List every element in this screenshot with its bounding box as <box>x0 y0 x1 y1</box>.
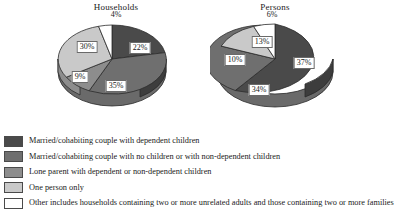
pie-svg-persons <box>210 0 340 132</box>
pct-persons-one-person: 13% <box>252 36 273 48</box>
legend-swatch-icon-other <box>4 198 23 209</box>
legend-label-lone-parent: Lone parent with dependent or non-depend… <box>29 167 211 177</box>
pct-households-lone-parent: 9% <box>72 71 89 83</box>
pct-households-married-dependent: 22% <box>130 42 151 54</box>
legend-item-other: Other includes households containing two… <box>4 196 418 210</box>
pie-chart-persons: Persons 6% 37% 34% 10% 1 <box>210 0 340 132</box>
legend-label-married-no-children: Married/cohabiting couple with no childr… <box>29 152 280 162</box>
pie-svg-households <box>54 0 178 132</box>
charts-container: Households <box>0 0 420 132</box>
pct-persons-lone-parent: 10% <box>225 54 246 66</box>
pct-households-one-person: 30% <box>77 41 98 53</box>
chart-legend: Married/cohabiting couple with dependent… <box>4 134 418 212</box>
legend-swatch-icon-lone-parent <box>4 167 23 178</box>
legend-label-other: Other includes households containing two… <box>29 198 394 208</box>
legend-swatch-icon-married-dependent <box>4 136 23 147</box>
legend-swatch-icon-one-person <box>4 182 23 193</box>
pie-chart-households: Households <box>54 0 178 132</box>
legend-swatch-icon-married-no-children <box>4 151 23 162</box>
pct-persons-married-dependent: 37% <box>294 57 315 69</box>
legend-item-one-person: One person only <box>4 181 418 195</box>
pct-persons-other: 6% <box>267 11 278 19</box>
legend-item-married-no-children: Married/cohabiting couple with no childr… <box>4 150 418 164</box>
legend-item-married-dependent: Married/cohabiting couple with dependent… <box>4 134 418 148</box>
legend-item-lone-parent: Lone parent with dependent or non-depend… <box>4 165 418 179</box>
legend-label-married-dependent: Married/cohabiting couple with dependent… <box>29 136 200 146</box>
pct-households-married-no-children: 35% <box>106 80 127 92</box>
pct-persons-married-no-children: 34% <box>249 84 270 96</box>
legend-label-one-person: One person only <box>29 183 84 193</box>
pct-households-other: 4% <box>111 11 122 19</box>
